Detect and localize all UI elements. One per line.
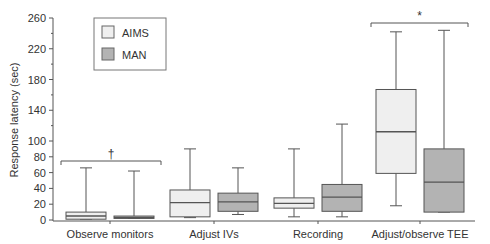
box-man [322, 184, 362, 211]
legend-swatch-aims [102, 26, 114, 38]
legend-label-aims: AIMS [122, 27, 149, 39]
y-tick-label: 60 [34, 167, 46, 179]
asterisk-significance-bracket [371, 23, 468, 27]
y-tick-label: 80 [34, 151, 46, 163]
y-tick-label: 180 [28, 74, 46, 86]
x-tick-label: Adjust IVs [189, 228, 239, 240]
chart-canvas: 020406080100140180220260Response latency… [0, 0, 490, 244]
y-tick-label: 20 [34, 198, 46, 210]
box-plot-chart: 020406080100140180220260Response latency… [0, 0, 490, 244]
box-aims [170, 190, 210, 217]
y-tick-label: 260 [28, 12, 46, 24]
y-tick-label: 100 [28, 135, 46, 147]
y-tick-label: 220 [28, 43, 46, 55]
y-tick-label: 0 [40, 214, 46, 226]
legend-label-man: MAN [122, 49, 147, 61]
dagger-significance-bracket [61, 161, 161, 165]
y-tick-label: 140 [28, 104, 46, 116]
asterisk-significance-symbol: * [417, 9, 422, 23]
y-axis-label: Response latency (sec) [8, 63, 20, 178]
x-tick-label: Adjust/observe TEE [371, 228, 468, 240]
legend-swatch-man [102, 48, 114, 60]
x-tick-label: Recording [293, 228, 343, 240]
box-man [424, 149, 464, 212]
x-tick-label: Observe monitors [67, 228, 154, 240]
dagger-significance-symbol: † [108, 147, 115, 161]
y-tick-label: 40 [34, 182, 46, 194]
